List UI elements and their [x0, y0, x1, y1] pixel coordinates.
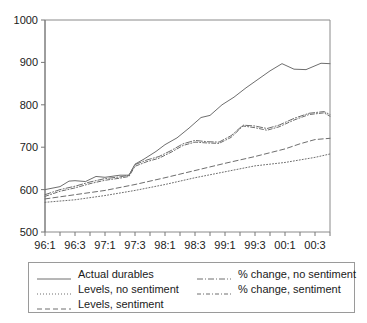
x-tick-label: 99:3: [244, 239, 265, 251]
legend-item[interactable]: % change, sentiment: [197, 282, 341, 297]
legend-entries: Actual durablesLevels, no sentimentLevel…: [29, 263, 354, 312]
data-series-group: [45, 63, 330, 202]
line-chart-plot: 5006007008009001000 96:196:397:197:398:1…: [0, 0, 367, 260]
x-tick-label: 97:3: [124, 239, 145, 251]
plot-frame: [45, 20, 330, 232]
x-axis-ticks: [45, 232, 330, 236]
y-tick-label: 800: [20, 99, 38, 111]
x-tick-label: 00:1: [274, 239, 295, 251]
legend-item[interactable]: Levels, no sentiment: [37, 282, 179, 297]
legend-item[interactable]: Levels, sentiment: [37, 297, 164, 312]
x-tick-label: 97:1: [94, 239, 115, 251]
series-line: [45, 154, 330, 202]
y-axis-ticks: [41, 20, 45, 232]
legend-line-swatch: [37, 270, 71, 280]
y-tick-label: 700: [20, 141, 38, 153]
x-tick-label: 98:3: [184, 239, 205, 251]
legend-line-swatch: [37, 285, 71, 295]
y-tick-label: 1000: [14, 14, 38, 26]
legend-line-swatch: [197, 285, 231, 295]
y-tick-label: 900: [20, 56, 38, 68]
legend-item[interactable]: % change, no sentiment: [197, 267, 356, 282]
legend-item-label: Levels, no sentiment: [78, 284, 179, 295]
series-line: [45, 138, 330, 199]
series-line: [45, 63, 330, 189]
y-tick-label: 500: [20, 226, 38, 238]
legend-item-label: % change, no sentiment: [238, 269, 356, 280]
series-line: [45, 113, 330, 197]
legend-line-swatch: [37, 300, 71, 310]
legend-line-swatch: [197, 270, 231, 280]
legend-item[interactable]: Actual durables: [37, 267, 154, 282]
legend-item-label: Levels, sentiment: [78, 299, 164, 310]
y-tick-label: 600: [20, 184, 38, 196]
x-tick-label: 96:1: [34, 239, 55, 251]
legend-item-label: % change, sentiment: [238, 284, 341, 295]
series-line: [45, 112, 330, 195]
x-tick-label: 96:3: [64, 239, 85, 251]
chart-figure: 5006007008009001000 96:196:397:197:398:1…: [0, 0, 367, 323]
y-axis-tick-labels: 5006007008009001000: [14, 14, 38, 238]
x-tick-label: 99:1: [214, 239, 235, 251]
x-tick-label: 98:1: [154, 239, 175, 251]
x-tick-label: 00:3: [304, 239, 325, 251]
x-axis-tick-labels: 96:196:397:197:398:198:399:199:300:100:3: [34, 239, 325, 251]
chart-legend: Actual durablesLevels, no sentimentLevel…: [28, 262, 355, 313]
legend-item-label: Actual durables: [78, 269, 154, 280]
